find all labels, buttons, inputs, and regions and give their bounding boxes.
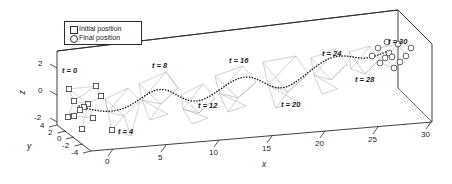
z-axis-ticks: [50, 64, 57, 122]
figure-3d-trajectory-plot: Initial position Final position 2 0 -2 z…: [0, 0, 452, 184]
y-axis-label: y: [27, 142, 31, 151]
time-label-t20: t = 20: [281, 101, 300, 109]
time-label-t8: t = 8: [152, 62, 167, 70]
z-tick-0: 0: [38, 87, 42, 95]
time-label-t28: t = 28: [355, 76, 374, 84]
legend-entry-final-position: Final position: [68, 33, 137, 42]
legend-label-initial-position: Initial position: [79, 25, 121, 32]
legend-entry-initial-position: Initial position: [68, 24, 137, 33]
time-label-t24: t = 24: [322, 50, 341, 58]
x-tick-25: 25: [368, 136, 377, 144]
time-label-t4: t = 4: [118, 128, 133, 136]
z-axis-label: z: [18, 90, 27, 94]
z-tick-2: 2: [38, 60, 42, 68]
time-label-t30: t = 30: [388, 38, 407, 46]
y-tick-4: 4: [40, 122, 44, 130]
time-label-t12: t = 12: [198, 102, 217, 110]
time-label-t16: t = 16: [229, 57, 248, 65]
y-tick-neg4: -4: [71, 149, 78, 157]
x-tick-10: 10: [209, 149, 218, 157]
y-tick-2: 2: [48, 129, 52, 137]
y-tick-neg2: -2: [62, 142, 69, 150]
time-label-t0: t = 0: [62, 67, 77, 75]
x-tick-0: 0: [105, 158, 109, 166]
x-tick-5: 5: [158, 154, 162, 162]
y-tick-0: 0: [57, 135, 61, 143]
legend-label-final-position: Final position: [79, 34, 120, 41]
x-tick-20: 20: [315, 140, 324, 148]
x-axis-label: x: [262, 160, 266, 169]
circle-marker-icon: [68, 33, 79, 42]
x-tick-15: 15: [262, 145, 271, 153]
square-marker-icon: [68, 24, 79, 33]
legend: Initial position Final position: [64, 21, 142, 45]
x-tick-30: 30: [421, 131, 430, 139]
